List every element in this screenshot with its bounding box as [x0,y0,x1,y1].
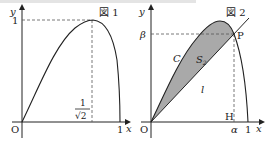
fig2-alpha-label: α [231,124,238,135]
fig1-x-label: x [126,123,132,134]
fig2-origin-label: O [140,124,148,135]
fig1-origin-label: O [11,124,19,135]
fig1-y-tick-1: 1 [12,15,18,26]
figures-canvas: y 1 図 1 1 √2 O 1 x y β 図 2 P C S2 l H O … [0,0,269,143]
fig1-title: 図 1 [99,7,119,18]
fig1-peak-denominator: √2 [75,111,86,121]
figure-2: y β 図 2 P C S2 l H O α 1 x [138,6,262,138]
fig1-x-tick-1: 1 [117,124,123,135]
fig2-point-p-label: P [237,30,244,41]
fig2-area-label-sub: 2 [202,59,207,66]
fig2-x-label: x [256,123,262,134]
fig1-curve [22,20,120,122]
fig2-y-label: y [138,6,145,17]
fig2-beta-label: β [139,29,146,40]
fig1-peak-numerator: 1 [80,98,86,108]
figure-1: y 1 図 1 1 √2 O 1 x [9,6,132,138]
fig2-foot-h-label: H [225,111,234,122]
fig2-title: 図 2 [226,7,246,18]
fig2-shaded-area [151,21,234,122]
fig2-x-tick-1: 1 [245,124,251,135]
fig2-curve-c-label: C [173,53,181,64]
fig2-line-l-label: l [201,84,204,95]
